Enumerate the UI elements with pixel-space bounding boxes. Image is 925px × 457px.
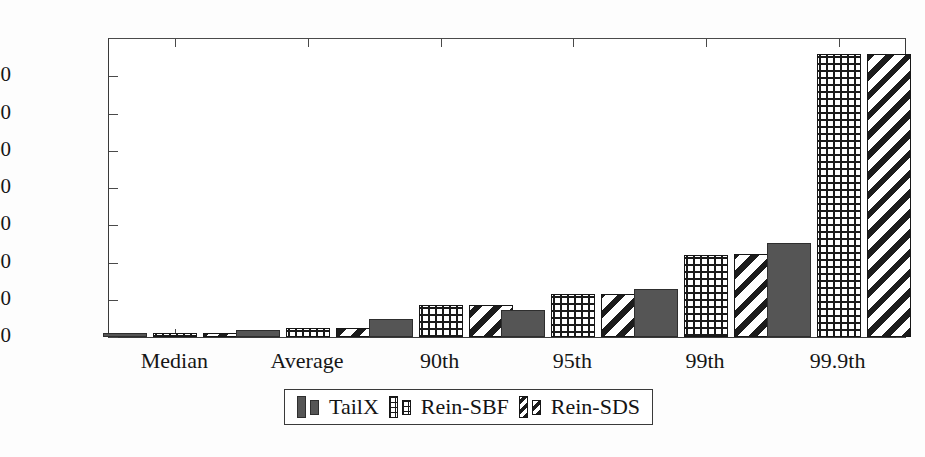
legend-label: Rein-SDS [551, 394, 640, 420]
bar-tailx-99-9th [767, 243, 811, 337]
legend-entry-rein-sds: Rein-SDS [519, 394, 640, 420]
x-axis-tick-top [573, 39, 574, 47]
legend-entry-tailx: TailX [297, 394, 379, 420]
bar-rein-sbf-95th [551, 294, 595, 337]
y-axis-tick [109, 337, 118, 338]
plot-frame [108, 38, 906, 338]
bar-tailx-median [103, 333, 147, 337]
y-axis-tick [109, 76, 118, 77]
x-axis-tick-top [839, 39, 840, 47]
legend-swatch-pair [297, 396, 323, 418]
bar-rein-sbf-average [286, 328, 330, 337]
bar-tailx-average [236, 330, 280, 337]
legend-swatch-pair [519, 396, 545, 418]
bar-chart-figure: Latency (in ms) 0100200300400500600700 M… [0, 0, 925, 457]
legend-swatch-dots-icon [402, 400, 411, 415]
y-axis-tick [109, 225, 118, 226]
bar-tailx-95th [501, 310, 545, 337]
y-axis-tick [109, 151, 118, 152]
y-axis-tick [109, 188, 118, 189]
bar-rein-sbf-median [153, 333, 197, 337]
bar-tailx-99th [634, 289, 678, 337]
y-axis-tick-label: 500 [0, 139, 11, 160]
y-axis-tick-label: 200 [0, 251, 11, 272]
legend-swatch-solid-icon [310, 400, 319, 415]
legend-label: Rein-SBF [421, 394, 509, 420]
chart-legend: TailXRein-SBFRein-SDS [284, 389, 653, 425]
y-axis-tick-label: 400 [0, 176, 11, 197]
legend-swatch-solid-icon [297, 396, 306, 418]
x-axis-tick-top [175, 39, 176, 47]
x-axis-tick-label: 99.9th [758, 348, 918, 374]
y-axis-tick-label: 300 [0, 213, 11, 234]
y-axis-tick [109, 114, 118, 115]
legend-label: TailX [329, 394, 379, 420]
plot-area [109, 39, 905, 337]
bar-rein-sds-99-9th [867, 54, 911, 337]
y-axis-tick [109, 300, 118, 301]
legend-swatch-dots-icon [389, 396, 398, 418]
legend-entry-rein-sbf: Rein-SBF [389, 394, 509, 420]
y-axis-tick-right [896, 337, 905, 338]
y-axis-tick-label: 600 [0, 102, 11, 123]
x-axis-tick-top [308, 39, 309, 47]
bar-rein-sbf-90th [419, 305, 463, 337]
y-axis-tick-label: 0 [0, 325, 11, 346]
x-axis-tick-top [441, 39, 442, 47]
legend-swatch-diag-icon [532, 400, 541, 415]
bar-tailx-90th [369, 319, 413, 337]
bar-rein-sbf-99th [684, 255, 728, 337]
legend-swatch-diag-icon [519, 396, 528, 418]
x-axis-tick-top [706, 39, 707, 47]
y-axis-tick-label: 700 [0, 64, 11, 85]
y-axis-tick [109, 263, 118, 264]
legend-swatch-pair [389, 396, 415, 418]
y-axis-tick-label: 100 [0, 288, 11, 309]
bar-rein-sbf-99-9th [817, 54, 861, 337]
